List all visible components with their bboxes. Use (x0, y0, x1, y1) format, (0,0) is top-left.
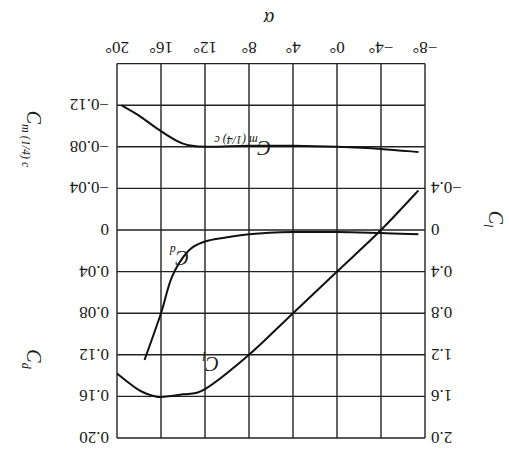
x-tick-label: 0° (329, 38, 344, 57)
cl-tick-label: −0.4 (431, 178, 462, 197)
x-tick-label: 16° (149, 38, 173, 57)
cd-axis-label: Cd (19, 349, 45, 369)
x-tick-label: 20° (105, 38, 129, 57)
cl-curve (117, 190, 418, 396)
cd-tick-label: 0.16 (79, 386, 109, 405)
cm-tick-label: −0.08 (70, 137, 109, 156)
cl-tick-label: 1.6 (431, 386, 452, 405)
svg-text:Cd: Cd (19, 349, 45, 369)
tick-labels: −8°−4°0°4°8°12°16°20°−0.400.40.81.21.62.… (69, 38, 462, 447)
x-tick-label: −8° (413, 38, 438, 57)
cd-tick-label: 0.08 (79, 303, 109, 322)
rotated-figure: −8°−4°0°4°8°12°16°20°−0.400.40.81.21.62.… (0, 0, 509, 469)
cd-tick-label: 0.12 (79, 345, 109, 364)
cd-tick-label: 0 (101, 220, 110, 239)
lift-drag-moment-chart: −8°−4°0°4°8°12°16°20°−0.400.40.81.21.62.… (0, 0, 509, 469)
cl-axis-label: Cl (481, 211, 507, 228)
cl-curve-label: Cl (202, 349, 219, 375)
cl-tick-label: 0.8 (431, 303, 452, 322)
cd-curve-label: Cd (169, 243, 189, 269)
cl-tick-label: 0.4 (431, 262, 453, 281)
x-tick-label: 12° (193, 38, 217, 57)
cm-tick-label: −0.04 (69, 178, 109, 197)
cm-axis-label: Cm (1/4) c (19, 111, 45, 168)
cl-tick-label: 0 (431, 220, 440, 239)
x-axis-label: α (263, 8, 274, 30)
cd-tick-label: 0.20 (79, 428, 109, 447)
chart-stage: −8°−4°0°4°8°12°16°20°−0.400.40.81.21.62.… (0, 0, 509, 469)
grid (117, 64, 425, 438)
cm-curve-label: Cm (1/4) c (214, 133, 271, 159)
x-tick-label: 8° (241, 38, 256, 57)
x-tick-label: 4° (285, 38, 300, 57)
svg-text:Cm (1/4) c: Cm (1/4) c (19, 111, 45, 168)
svg-text:Cl: Cl (481, 211, 507, 228)
cl-tick-label: 2.0 (431, 428, 452, 447)
cl-tick-label: 1.2 (431, 345, 452, 364)
cm-tick-label: −0.12 (70, 95, 109, 114)
x-tick-label: −4° (369, 38, 394, 57)
cd-tick-label: 0.04 (79, 262, 109, 281)
